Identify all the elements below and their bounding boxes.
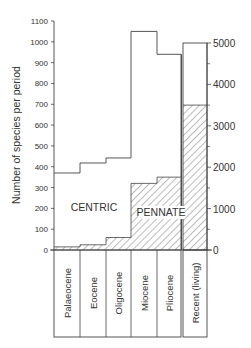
category-label: Oligocene bbox=[113, 272, 124, 315]
pennate-bar bbox=[106, 238, 131, 250]
right-tick-label: 0 bbox=[213, 245, 219, 256]
category-axis: PalaeoceneEoceneOligoceneMiocenePliocene… bbox=[54, 250, 207, 337]
right-tick-label: 5000 bbox=[213, 38, 236, 49]
category-label: Eocene bbox=[88, 277, 99, 309]
left-tick-label: 200 bbox=[35, 204, 49, 213]
right-tick-label: 4000 bbox=[213, 79, 236, 90]
right-y-axis: 010002000300040005000 bbox=[207, 38, 236, 256]
category-label: Miocene bbox=[139, 275, 150, 311]
left-tick-label: 1000 bbox=[30, 38, 48, 47]
right-tick-label: 3000 bbox=[213, 121, 236, 132]
left-y-axis: 010020030040050060070080090010001100 bbox=[30, 17, 54, 255]
pennate-bar bbox=[80, 245, 106, 250]
category-label: Pliocene bbox=[164, 275, 175, 311]
right-tick-label: 1000 bbox=[213, 204, 236, 215]
centric-label: CENTRIC bbox=[71, 201, 118, 213]
left-tick-label: 100 bbox=[35, 225, 49, 234]
recent-pennate-bar bbox=[183, 105, 207, 250]
left-tick-label: 1100 bbox=[31, 17, 49, 26]
left-tick-label: 400 bbox=[35, 163, 49, 172]
left-tick-label: 600 bbox=[35, 121, 49, 130]
category-label: Palaeocene bbox=[62, 268, 73, 318]
left-tick-label: 300 bbox=[35, 184, 49, 193]
diatom-species-chart: 010020030040050060070080090010001100 Num… bbox=[0, 0, 251, 348]
left-tick-label: 0 bbox=[44, 246, 49, 255]
right-tick-label: 2000 bbox=[213, 162, 236, 173]
y-axis-title: Number of species per period bbox=[10, 66, 22, 204]
left-tick-label: 500 bbox=[35, 142, 49, 151]
left-tick-label: 700 bbox=[35, 100, 49, 109]
category-label: Recent (living) bbox=[190, 263, 201, 324]
left-tick-label: 900 bbox=[35, 59, 49, 68]
left-tick-label: 800 bbox=[35, 79, 49, 88]
pennate-label: PENNATE bbox=[137, 206, 186, 218]
pennate-bar bbox=[54, 247, 80, 250]
